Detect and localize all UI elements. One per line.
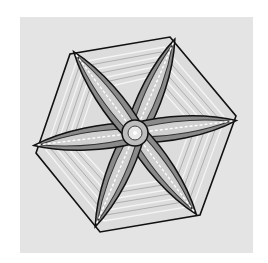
- snowflake-image: [0, 0, 268, 263]
